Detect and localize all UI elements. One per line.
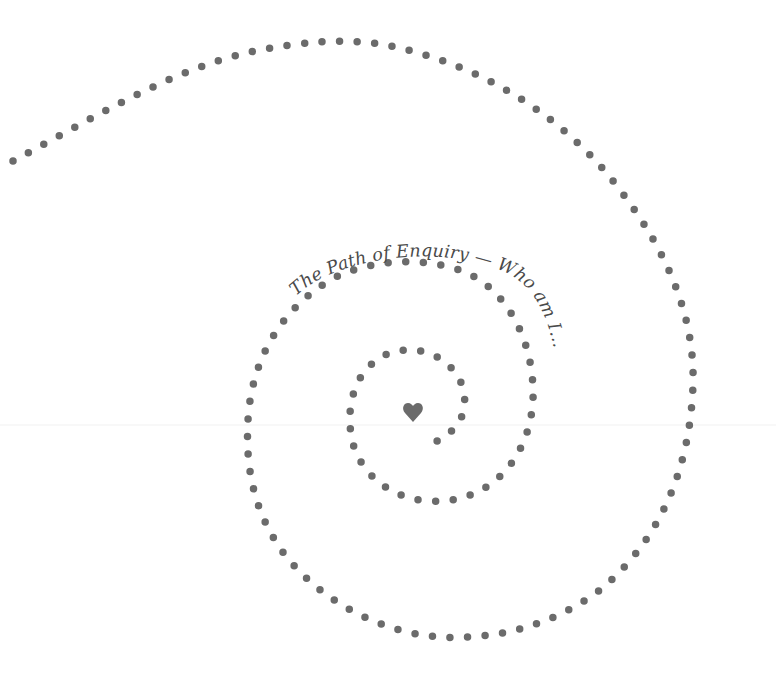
dotted-spiral-path [13,41,693,637]
curved-title-text: The Path of Enquiry — Who am I... [285,240,569,349]
heart-icon [403,403,423,422]
spiral-artwork: The Path of Enquiry — Who am I... [0,0,776,680]
dotted-spiral-graphic: The Path of Enquiry — Who am I... [0,0,776,680]
